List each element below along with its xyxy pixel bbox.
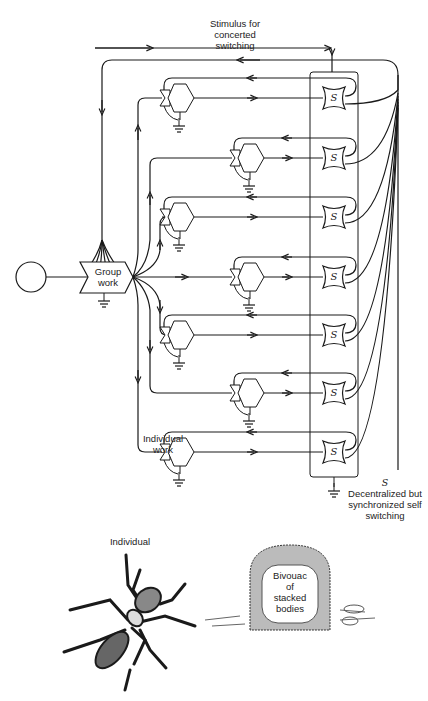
- stimulus-label-line: switching: [190, 40, 280, 51]
- bivouac-label-line: stacked: [264, 592, 316, 603]
- stimulus-label: Stimulus for concerted switching: [190, 18, 280, 51]
- switch-symbol: S: [328, 446, 340, 457]
- group-work-label: Group work: [88, 266, 128, 288]
- group-work-label-line: work: [88, 277, 128, 288]
- worker-unit: [160, 321, 194, 369]
- individual-work-label-line: work: [140, 444, 186, 455]
- ground-icon: [98, 293, 110, 307]
- individual-work-label: Individual work: [140, 433, 186, 455]
- switch-symbol: S: [328, 387, 340, 398]
- individual-work-label-line: Individual: [140, 433, 186, 444]
- bivouac-label-line: bodies: [264, 603, 316, 614]
- switch-symbol: S: [328, 211, 340, 222]
- stimulus-label-line: Stimulus for: [190, 18, 280, 29]
- switch-legend-line: Decentralized but: [342, 488, 428, 499]
- worker-unit: [230, 144, 264, 192]
- worker-unit: [160, 84, 194, 132]
- worker-unit: [160, 203, 194, 251]
- switch-symbol: S: [328, 271, 340, 282]
- stimulus-label-line: concerted: [190, 29, 280, 40]
- switch-symbol: S: [328, 152, 340, 163]
- switch-symbol: S: [328, 329, 340, 340]
- bivouac-label: Bivouac of stacked bodies: [264, 570, 316, 614]
- worker-unit: [230, 379, 264, 427]
- ant-switching-diagram: [0, 0, 428, 701]
- bivouac-label-line: of: [264, 581, 316, 592]
- switch-legend-symbol: S: [342, 477, 428, 488]
- switch-symbol: S: [328, 92, 340, 103]
- switch-legend-line: switching: [342, 510, 428, 521]
- switch-legend-line: synchronized self: [342, 499, 428, 510]
- bivouac-label-line: Bivouac: [264, 570, 316, 581]
- worker-unit: [230, 263, 264, 311]
- ant-body: [89, 583, 165, 674]
- group-work-label-line: Group: [88, 266, 128, 277]
- switch-legend: S Decentralized but synchronized self sw…: [342, 477, 428, 521]
- ant-label: Individual: [105, 536, 155, 547]
